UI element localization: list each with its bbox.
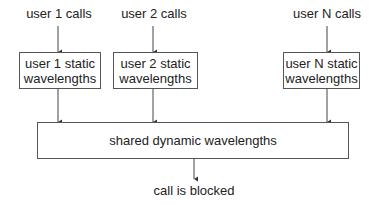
connector-arrows <box>0 0 378 205</box>
user1-static-line2: wavelengths <box>24 71 96 86</box>
shared-dynamic-box: shared dynamic wavelengths <box>37 122 349 159</box>
user1-static-line1: user 1 static <box>24 56 96 71</box>
user2-static-box: user 2 static wavelengths <box>113 52 198 89</box>
shared-dynamic-label: shared dynamic wavelengths <box>109 133 277 148</box>
userN-static-box: user N static wavelengths <box>283 52 360 89</box>
user2-static-line1: user 2 static <box>119 56 191 71</box>
userN-static-line2: wavelengths <box>285 71 357 86</box>
userN-calls-label: user N calls <box>283 6 371 21</box>
user2-calls-label: user 2 calls <box>111 6 197 21</box>
blocked-label: call is blocked <box>144 183 244 198</box>
user1-static-box: user 1 static wavelengths <box>19 52 101 89</box>
user1-calls-label: user 1 calls <box>18 6 100 21</box>
user2-static-line2: wavelengths <box>119 71 191 86</box>
userN-static-line1: user N static <box>285 56 357 71</box>
